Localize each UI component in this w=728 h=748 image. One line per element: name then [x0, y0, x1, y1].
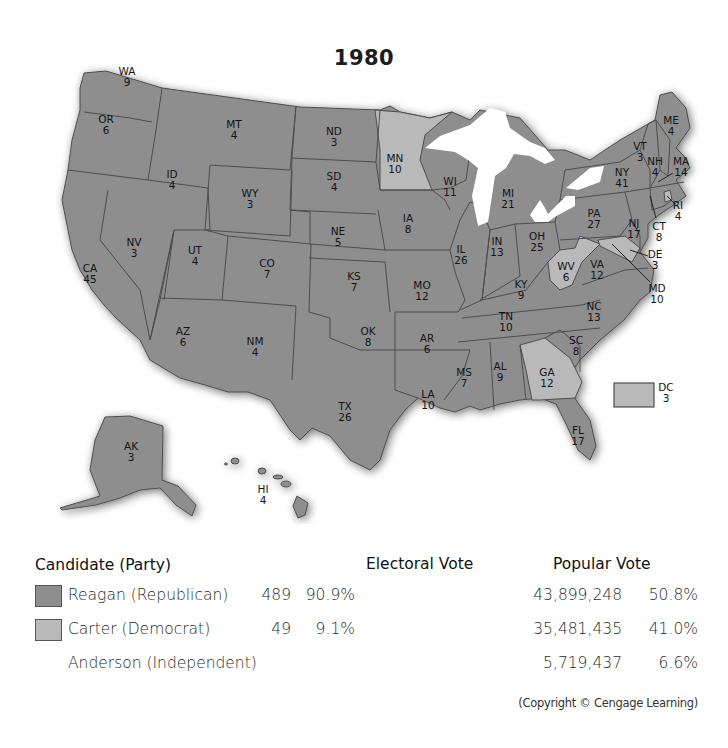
- state-label-mo: MO12: [413, 279, 430, 302]
- carter-swatch: [35, 619, 62, 641]
- state-label-tn: TN10: [498, 310, 513, 333]
- header-candidate: Candidate (Party): [35, 556, 171, 574]
- candidate-name: Carter (Democrat): [68, 620, 210, 638]
- state-label-ct: CT8: [652, 220, 666, 243]
- electoral-votes: 489: [261, 586, 291, 604]
- state-label-mn: MN10: [387, 152, 404, 175]
- alaska: [60, 416, 196, 516]
- dc-box: [614, 383, 654, 407]
- state-label-ny: NY41: [615, 166, 630, 189]
- state-label-ca: CA45: [83, 262, 98, 285]
- state-label-nj: NJ17: [627, 217, 640, 240]
- candidate-name: Anderson (Independent): [68, 654, 257, 672]
- reagan-swatch: [35, 585, 62, 607]
- copyright-note: (Copyright © Cengage Learning): [518, 696, 698, 710]
- header-electoral-vote: Electoral Vote: [366, 555, 473, 573]
- electoral-pct: 9.1%: [316, 620, 355, 638]
- popular-pct: 6.6%: [659, 654, 698, 672]
- state-label-ma: MA14: [673, 155, 690, 178]
- electoral-pct: 90.9%: [306, 586, 355, 604]
- legend-row-anderson: Anderson (Independent) 5,719,437 6.6%: [0, 653, 728, 677]
- state-label-hi: HI4: [258, 483, 269, 506]
- electoral-votes: 49: [271, 620, 291, 638]
- state-label-ri: RI4: [673, 199, 683, 222]
- state-label-la: LA10: [421, 388, 435, 411]
- legend-row-carter: Carter (Democrat) 49 9.1% 35,481,435 41.…: [0, 619, 728, 643]
- state-label-dc: DC3: [658, 381, 673, 404]
- state-label-md: MD10: [648, 282, 665, 305]
- popular-votes: 43,899,248: [533, 586, 622, 604]
- legend-header-row: Candidate (Party) Electoral Vote Popular…: [0, 555, 728, 579]
- state-label-wi: WI11: [443, 175, 456, 198]
- legend-row-reagan: Reagan (Republican) 489 90.9% 43,899,248…: [0, 585, 728, 609]
- popular-pct: 41.0%: [649, 620, 698, 638]
- state-label-tx: TX26: [337, 400, 352, 423]
- popular-votes: 35,481,435: [533, 620, 622, 638]
- state-label-va: VA12: [590, 258, 605, 281]
- popular-votes: 5,719,437: [543, 654, 622, 672]
- state-label-pa: PA27: [587, 207, 601, 230]
- state-label-nc: NC13: [586, 300, 601, 323]
- popular-pct: 50.8%: [649, 586, 698, 604]
- state-label-ga: GA12: [539, 366, 555, 389]
- header-popular-vote: Popular Vote: [553, 555, 651, 573]
- state-label-mi: MI21: [501, 187, 514, 210]
- candidate-name: Reagan (Republican): [68, 586, 228, 604]
- state-label-fl: FL17: [571, 424, 584, 447]
- electoral-map: WA9OR6ID4MT4WY3ND3SD4NE5KS7OK8TX26MN10IA…: [0, 0, 728, 548]
- state-label-in: IN13: [490, 235, 503, 258]
- state-label-oh: OH25: [529, 230, 545, 253]
